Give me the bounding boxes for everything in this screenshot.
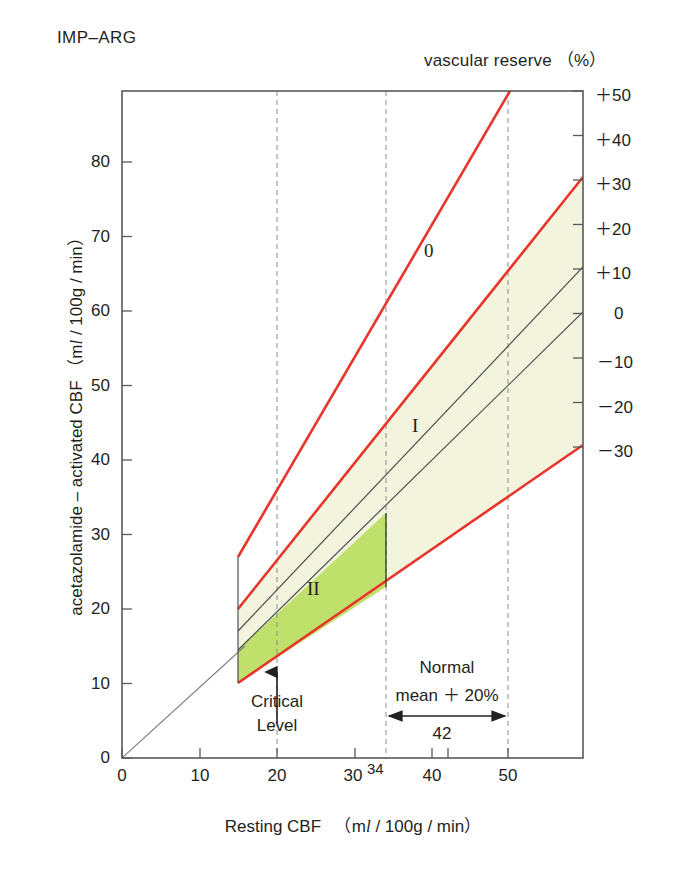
x-tick-10: 10: [180, 766, 220, 786]
right-tick-p40: ＋40: [595, 126, 659, 151]
normal-mean-value: 42: [407, 724, 477, 744]
right-tick-p10: ＋10: [595, 259, 659, 284]
critical-level-line1: Critical: [217, 692, 337, 712]
x-tick-50: 50: [488, 766, 528, 786]
x-tick-20: 20: [257, 766, 297, 786]
y-tick-50: 50: [70, 376, 110, 396]
region-label-I: I: [412, 415, 418, 437]
x-axis-ticks: [122, 748, 508, 758]
y-tick-80: 80: [70, 152, 110, 172]
right-tick-0: 0: [614, 304, 677, 324]
y-tick-30: 30: [70, 525, 110, 545]
x-tick-34: 34: [367, 760, 384, 777]
y-tick-70: 70: [70, 227, 110, 247]
x-tick-40: 40: [412, 766, 452, 786]
y-axis-ticks: [122, 162, 132, 758]
right-tick-m10: －10: [597, 348, 661, 373]
right-tick-p30: ＋30: [595, 170, 659, 195]
right-tick-m20: －20: [597, 393, 661, 418]
y-tick-60: 60: [70, 301, 110, 321]
normal-mean-line1: Normal: [387, 658, 507, 678]
plot-inner: [122, 91, 583, 758]
critical-level-line2: Level: [217, 716, 337, 736]
right-tick-p20: ＋20: [595, 215, 659, 240]
right-tick-m30: －30: [597, 437, 661, 462]
y-tick-20: 20: [70, 599, 110, 619]
region-label-0: 0: [424, 240, 434, 262]
region-label-II: II: [307, 578, 320, 600]
y-tick-0: 0: [70, 748, 110, 768]
y-tick-40: 40: [70, 450, 110, 470]
right-tick-p50: ＋50: [595, 81, 659, 106]
x-tick-0: 0: [102, 766, 142, 786]
y-tick-10: 10: [70, 674, 110, 694]
chart-root: IMP–ARG vascular reserve （%） acetazolami…: [0, 0, 677, 882]
normal-mean-line2: mean ＋ 20%: [375, 681, 519, 706]
